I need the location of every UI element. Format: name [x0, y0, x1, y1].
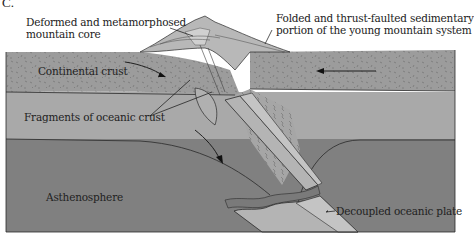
label-decoupled-plate: Decoupled oceanic plate [336, 205, 462, 217]
label-sedimentary: Folded and thrust-faulted sedimentary po… [276, 12, 474, 36]
label-asthenosphere: Asthenosphere [46, 191, 123, 203]
label-continental-crust: Continental crust [38, 65, 127, 77]
continental-crust-right [250, 50, 455, 91]
label-oceanic-fragments: Fragments of oceanic crust [24, 111, 165, 123]
label-mountain-core: Deformed and metamorphosed mountain core [26, 16, 186, 40]
asthenosphere-layer [6, 138, 455, 232]
